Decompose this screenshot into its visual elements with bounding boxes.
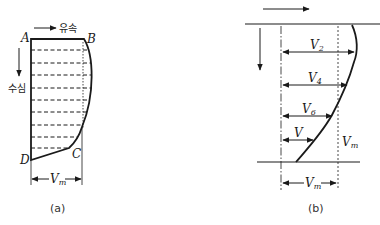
- velocity-profile-diagram: 유속 수심 A B C D Vm (a): [0, 0, 380, 225]
- depth-label: 수심: [8, 83, 26, 94]
- panel-a: 유속 수심 A B C D Vm (a): [8, 23, 96, 215]
- panel-b: V2 V4 V6 V Vm Vm (b): [245, 9, 380, 215]
- velocity-label-v: V: [294, 126, 304, 140]
- panel-b-caption: (b): [308, 202, 324, 215]
- point-a-label: A: [20, 31, 30, 45]
- mean-velocity-side-label: Vm: [342, 135, 359, 150]
- panel-a-caption: (a): [50, 202, 65, 215]
- velocity-label-v4: V4: [308, 71, 322, 86]
- flow-label: 유속: [59, 23, 77, 34]
- point-c-label: C: [72, 147, 81, 161]
- velocity-label-v6: V6: [302, 102, 316, 117]
- velocity-label-v2: V2: [310, 38, 324, 53]
- point-d-label: D: [19, 153, 30, 167]
